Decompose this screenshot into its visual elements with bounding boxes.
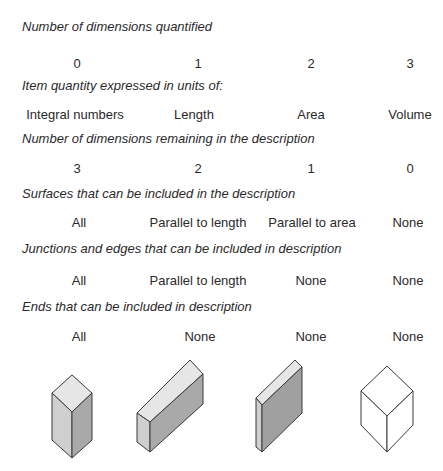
bar-shape (137, 360, 203, 452)
cube-outline-shape (361, 366, 413, 452)
column-shape (52, 375, 92, 458)
slab-shape (256, 360, 302, 452)
shapes-illustration (0, 0, 443, 471)
